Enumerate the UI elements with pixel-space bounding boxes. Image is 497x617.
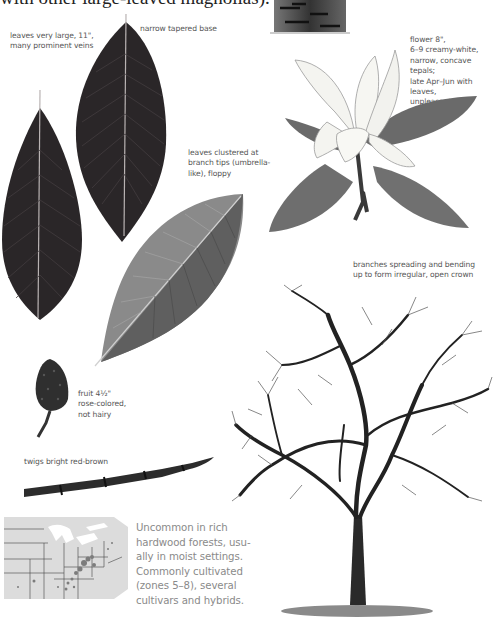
caption-clustered-leaves: leaves clustered at branch tips (umbrell… xyxy=(188,148,270,179)
fruit-illustration xyxy=(30,355,75,440)
bark-illustration xyxy=(270,0,350,34)
caption-fruit: fruit 4½" rose-colored, not hairy xyxy=(78,389,126,420)
leaf-illustration-underside xyxy=(95,192,245,367)
tree-silhouette-illustration xyxy=(232,285,492,617)
page-header-fragment: with other large-leaved magnolias). xyxy=(0,0,270,9)
range-map xyxy=(4,517,128,599)
flower-illustration xyxy=(265,42,480,237)
twig-illustration xyxy=(22,455,217,501)
caption-crown: branches spreading and bending up to for… xyxy=(353,260,475,281)
leaf-illustration-left xyxy=(0,90,86,322)
